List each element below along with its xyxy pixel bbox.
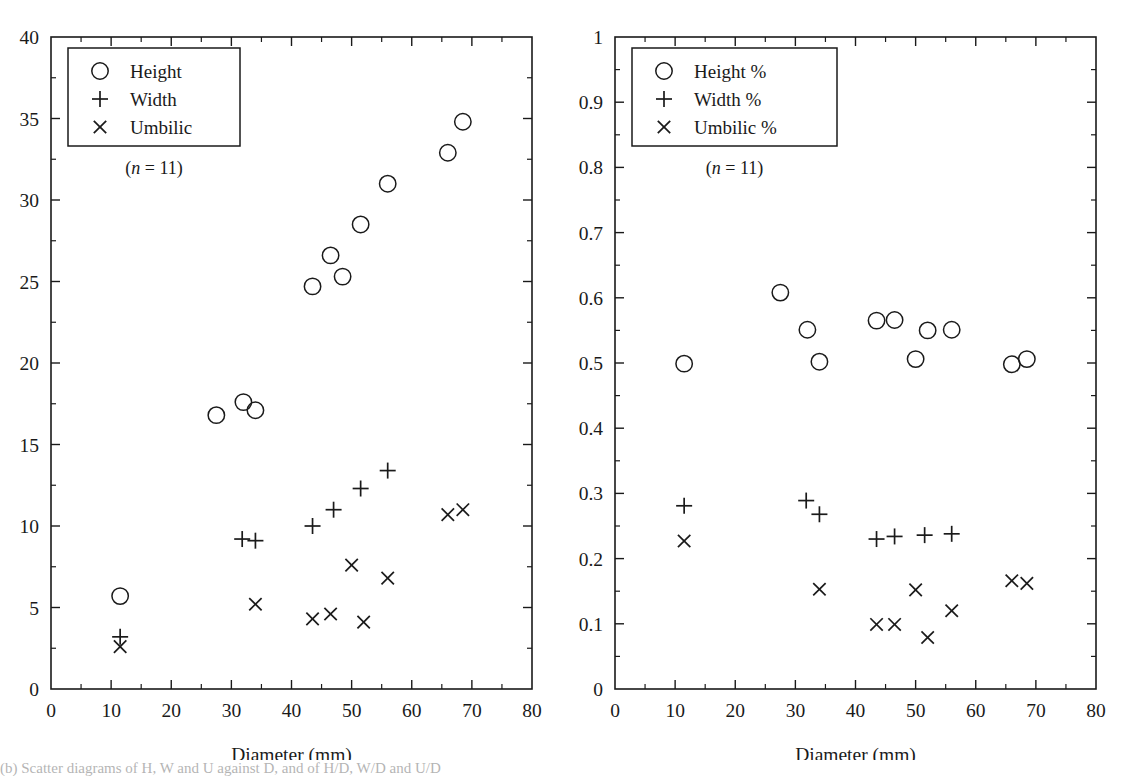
x-tick-label: 50: [342, 700, 362, 721]
data-point-circle: [676, 355, 692, 371]
data-point-circle: [811, 353, 827, 369]
x-axis-title: Diameter (mm): [231, 744, 352, 760]
y-tick-label: 35: [20, 109, 40, 130]
scatter-panel-left: 010203040506070800510152025303540HeightW…: [0, 0, 564, 776]
x-axis-title: Diameter (mm): [795, 744, 916, 760]
x-tick-label: 40: [846, 700, 866, 721]
y-tick-label: 0.3: [579, 483, 603, 504]
y-tick-label: 20: [20, 353, 40, 374]
y-tick-label: 10: [20, 516, 40, 537]
sample-size-text: (n = 11): [706, 158, 763, 179]
x-tick-label: 30: [222, 700, 242, 721]
y-tick-label: 0.9: [579, 92, 603, 113]
y-tick-label: 0.6: [579, 288, 604, 309]
data-point-circle: [112, 588, 128, 604]
y-tick-label: 0: [593, 679, 603, 700]
x-tick-label: 10: [665, 700, 685, 721]
data-point-circle: [304, 278, 320, 294]
sample-size-annotation: (n = 11): [706, 158, 763, 179]
data-point-circle: [868, 312, 884, 328]
x-tick-label: 20: [162, 700, 182, 721]
figure-two-scatter-panels: 010203040506070800510152025303540HeightW…: [0, 0, 1128, 776]
figure-caption-cropped: (b) Scatter diagrams of H, W and U again…: [0, 762, 1128, 776]
data-point-circle: [235, 394, 251, 410]
legend-label: Height %: [694, 61, 766, 82]
y-tick-label: 0.1: [579, 614, 603, 635]
y-tick-label: 0.7: [579, 223, 604, 244]
data-point-circle: [334, 268, 350, 284]
y-tick-label: 0.4: [579, 418, 604, 439]
y-tick-label: 25: [20, 272, 40, 293]
data-points-group: [676, 284, 1035, 643]
data-point-circle: [944, 322, 960, 338]
data-points-group: [112, 114, 471, 653]
y-tick-label: 0.8: [579, 157, 603, 178]
x-tick-label: 0: [46, 700, 56, 721]
x-tick-label: 70: [1026, 700, 1046, 721]
x-tick-label: 60: [966, 700, 986, 721]
x-tick-label: 10: [101, 700, 121, 721]
y-tick-label: 0: [29, 679, 39, 700]
data-point-circle: [799, 322, 815, 338]
legend-label: Umbilic: [130, 117, 192, 138]
x-tick-label: 20: [726, 700, 746, 721]
legend-label: Height: [130, 61, 182, 82]
x-tick-label: 40: [282, 700, 302, 721]
data-point-circle: [772, 284, 788, 300]
y-tick-label: 1: [593, 27, 603, 48]
data-point-circle: [1019, 351, 1035, 367]
x-tick-label: 80: [522, 700, 542, 721]
data-point-circle: [247, 402, 263, 418]
y-tick-label: 0.2: [579, 549, 603, 570]
x-tick-label: 60: [402, 700, 422, 721]
sample-size-annotation: (n = 11): [125, 158, 182, 179]
legend-label: Umbilic %: [694, 117, 777, 138]
legend-label: Width: [130, 89, 177, 110]
plot-svg-right: 0102030405060708000.10.20.30.40.50.60.70…: [564, 0, 1128, 760]
x-tick-label: 0: [610, 700, 620, 721]
legend: Height %Width %Umbilic %: [632, 48, 837, 146]
x-tick-label: 30: [786, 700, 806, 721]
sample-size-text: (n = 11): [125, 158, 182, 179]
legend-label: Width %: [694, 89, 761, 110]
y-tick-label: 15: [20, 435, 40, 456]
data-point-circle: [208, 407, 224, 423]
data-point-circle: [322, 247, 338, 263]
data-point-circle: [352, 216, 368, 232]
y-tick-label: 5: [29, 598, 39, 619]
data-point-circle: [919, 322, 935, 338]
data-point-circle: [380, 176, 396, 192]
data-point-circle: [455, 114, 471, 130]
data-point-circle: [886, 312, 902, 328]
data-point-circle: [1004, 356, 1020, 372]
legend: HeightWidthUmbilic: [68, 48, 240, 146]
data-point-circle: [440, 145, 456, 161]
x-tick-label: 80: [1086, 700, 1106, 721]
y-tick-label: 0.5: [579, 353, 603, 374]
scatter-panel-right: 0102030405060708000.10.20.30.40.50.60.70…: [564, 0, 1128, 776]
data-point-circle: [907, 351, 923, 367]
y-tick-label: 40: [20, 27, 40, 48]
x-tick-label: 70: [462, 700, 482, 721]
y-tick-label: 30: [20, 190, 40, 211]
x-tick-label: 50: [906, 700, 926, 721]
caption-text: (b) Scatter diagrams of H, W and U again…: [0, 762, 1128, 776]
plot-svg-left: 010203040506070800510152025303540HeightW…: [0, 0, 564, 760]
